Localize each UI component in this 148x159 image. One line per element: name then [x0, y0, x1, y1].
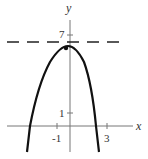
tick-label-1: 1 [59, 107, 65, 119]
graph: y x 7 1 -1 3 [0, 0, 148, 159]
tick-label-7: 7 [59, 28, 65, 40]
tick-label-neg1: -1 [52, 132, 61, 144]
parabola-curve [27, 46, 99, 152]
tick-label-3: 3 [104, 132, 110, 144]
x-axis-label: x [135, 119, 142, 133]
point-marker [64, 46, 68, 50]
y-axis-label: y [65, 1, 72, 15]
